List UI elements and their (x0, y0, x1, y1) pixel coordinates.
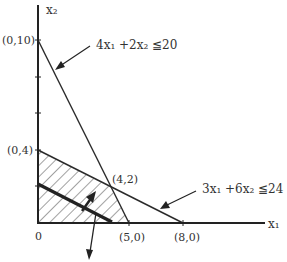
y-axis-label: x₂ (46, 3, 58, 17)
leader-arrow-2-icon (160, 191, 196, 209)
feasible-region (38, 150, 129, 223)
point-label-0-4: (0,4) (7, 144, 33, 157)
lp-diagram: x₂ x₁ 0 (0,10) (0,4) (4,2) (5,0) (8,0) 4… (0, 0, 287, 262)
constraint-label-2: 3x₁ +6x₂ ≦24 (202, 182, 284, 196)
point-label-4-2: (4,2) (112, 173, 138, 186)
x-axis-label: x₁ (268, 217, 280, 231)
leader-arrow-1-icon (55, 46, 90, 70)
constraint-label-1: 4x₁ +2x₂ ≦20 (96, 38, 177, 52)
point-label-0-10: (0,10) (2, 34, 35, 47)
point-label-5-0: (5,0) (119, 231, 145, 244)
origin-label: 0 (35, 230, 42, 243)
point-label-8-0: (8,0) (174, 231, 200, 244)
